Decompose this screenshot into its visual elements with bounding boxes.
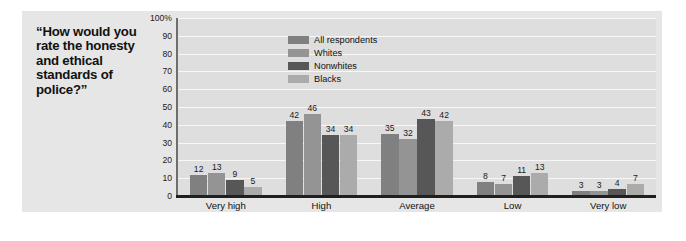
x-axis-tick-label: Very low — [590, 200, 626, 211]
x-axis-tick-label: High — [312, 200, 332, 211]
y-axis-tick-label: 50 — [136, 102, 172, 112]
bar-value-label: 43 — [421, 108, 431, 118]
bar-value-label: 34 — [326, 124, 336, 134]
x-axis-tick-label: Average — [399, 200, 435, 211]
x-axis: Very highHighAverageLowVery low — [178, 200, 656, 218]
bar[interactable]: 46 — [304, 114, 322, 196]
bar-value-label: 3 — [597, 180, 602, 190]
bar[interactable]: 34 — [322, 135, 340, 196]
bar-value-label: 34 — [344, 124, 354, 134]
bar-group: 3347 — [572, 18, 644, 196]
bar-value-label: 11 — [517, 165, 526, 175]
y-axis-tick-label: 0 — [136, 191, 172, 201]
x-axis-tick-label: Low — [504, 200, 522, 211]
bar-value-label: 42 — [439, 110, 449, 120]
legend-item[interactable]: Blacks — [288, 73, 448, 85]
legend-swatch-icon — [288, 49, 309, 57]
legend-swatch-icon — [288, 75, 309, 83]
chart-legend: All respondentsWhitesNonwhitesBlacks — [288, 34, 448, 86]
legend-item[interactable]: Whites — [288, 47, 448, 59]
legend-label: Nonwhites — [314, 61, 357, 71]
bar-value-label: 46 — [308, 103, 318, 113]
x-axis-tick-label: Very high — [206, 200, 246, 211]
bar-group: 871113 — [477, 18, 549, 196]
bar[interactable]: 43 — [417, 119, 435, 196]
y-axis-tick-label: 10 — [136, 173, 172, 183]
y-axis-tick-label: 20 — [136, 155, 172, 165]
bar-value-label: 7 — [633, 173, 638, 183]
bar[interactable]: 11 — [513, 176, 531, 196]
y-axis-tick-label: 60 — [136, 84, 172, 94]
bar-value-label: 13 — [212, 162, 222, 172]
bar[interactable]: 42 — [435, 121, 453, 196]
bar-value-label: 5 — [251, 176, 256, 186]
bar[interactable]: 13 — [208, 173, 226, 196]
chart-figure: “How would you rate the honesty and ethi… — [0, 0, 686, 241]
bar-value-label: 35 — [385, 123, 395, 133]
x-axis-baseline — [176, 195, 656, 198]
y-axis-tick-label: 80 — [136, 49, 172, 59]
bar[interactable]: 9 — [226, 180, 244, 196]
y-axis-tick-label: 90 — [136, 31, 172, 41]
bar[interactable]: 12 — [190, 175, 208, 196]
bar[interactable]: 13 — [531, 173, 549, 196]
legend-swatch-icon — [288, 62, 309, 70]
bar[interactable]: 8 — [477, 182, 495, 196]
bar-value-label: 13 — [535, 162, 545, 172]
legend-label: Blacks — [314, 74, 341, 84]
bar-value-label: 32 — [403, 128, 413, 138]
bar-value-label: 42 — [289, 110, 299, 120]
bar[interactable]: 34 — [340, 135, 358, 196]
legend-label: Whites — [314, 48, 342, 58]
bar-value-label: 8 — [483, 171, 488, 181]
y-axis-tick-label: 40 — [136, 120, 172, 130]
page-title: “How would you rate the honesty and ethi… — [36, 25, 148, 97]
y-axis-tick-label: 100% — [136, 13, 172, 23]
bar[interactable]: 32 — [399, 139, 417, 196]
bar-group: 121395 — [190, 18, 262, 196]
bar[interactable]: 35 — [381, 134, 399, 196]
legend-swatch-icon — [288, 36, 309, 44]
y-axis: 100%9080706050403020100 — [136, 18, 172, 196]
bar-value-label: 4 — [615, 178, 620, 188]
legend-label: All respondents — [314, 35, 377, 45]
legend-item[interactable]: Nonwhites — [288, 60, 448, 72]
plot-wrapper: 100%9080706050403020100 1213954246343435… — [136, 18, 656, 218]
y-axis-spine — [176, 18, 178, 197]
bar-value-label: 12 — [194, 164, 204, 174]
y-axis-tick-label: 70 — [136, 66, 172, 76]
bar-value-label: 3 — [579, 180, 584, 190]
y-axis-tick-label: 30 — [136, 138, 172, 148]
legend-item[interactable]: All respondents — [288, 34, 448, 46]
bar-value-label: 9 — [232, 169, 237, 179]
bar-value-label: 7 — [501, 173, 506, 183]
bar[interactable]: 42 — [286, 121, 304, 196]
